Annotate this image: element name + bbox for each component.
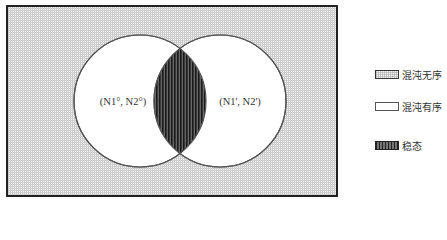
striped-swatch-icon [375,141,399,150]
legend-item-chaos-order: 混沌有序 [375,100,442,112]
legend-label: 混沌无序 [402,67,442,82]
right-circle-label: (N1', N2') [219,96,261,108]
legend-label: 稳态 [402,138,422,153]
legend-item-steady-state: 稳态 [375,139,422,151]
legend-item-chaos-disorder: 混沌无序 [375,68,442,80]
left-circle-label: (N1°, N2°) [100,96,147,108]
white-swatch-icon [375,102,399,111]
legend-label: 混沌有序 [402,99,442,114]
dotted-grid-swatch-icon [375,70,399,79]
